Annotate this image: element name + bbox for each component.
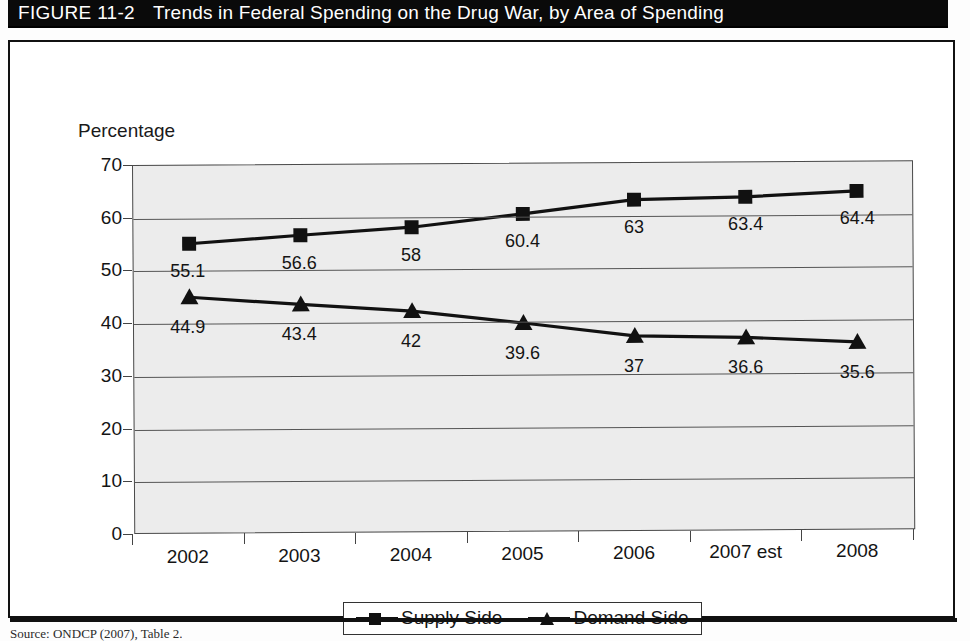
y-axis-tick-mark <box>123 429 132 430</box>
y-axis-tick-labels: 010203040506070 <box>74 162 122 537</box>
marker-square <box>738 190 752 204</box>
data-label: 37 <box>624 355 644 376</box>
data-label: 60.4 <box>505 231 540 252</box>
data-label: 58 <box>401 244 421 265</box>
marker-square <box>516 207 530 221</box>
x-axis-tick-label: 2006 <box>613 542 655 564</box>
data-label: 63.4 <box>728 214 763 235</box>
x-axis-tick-label: 2002 <box>167 546 209 568</box>
y-axis-tick-label: 70 <box>82 154 122 176</box>
data-label: 36.6 <box>728 357 763 378</box>
y-axis-title: Percentage <box>78 120 175 142</box>
y-axis-tick-mark <box>123 165 132 166</box>
y-axis-tick-mark <box>123 218 132 219</box>
data-label: 56.6 <box>282 252 317 273</box>
y-axis-tick-label: 40 <box>82 312 122 334</box>
y-axis-tick-label: 30 <box>82 365 122 387</box>
chart-frame: Percentage 010203040506070 55.156.65860.… <box>8 40 955 618</box>
y-axis-tick-mark <box>123 376 132 377</box>
data-label: 64.4 <box>840 208 875 229</box>
figure-caption-inner: FIGURE 11-2 Trends in Federal Spending o… <box>18 2 724 24</box>
figure-caption-band: FIGURE 11-2 Trends in Federal Spending o… <box>8 0 948 28</box>
data-label: 55.1 <box>170 261 205 282</box>
frame-shadow <box>10 618 957 622</box>
figure-title: Trends in Federal Spending on the Drug W… <box>153 2 724 24</box>
y-axis-tick-mark <box>123 534 132 535</box>
x-axis: 200220032004200520062007 est2008 <box>132 536 915 580</box>
x-axis-tick-label: 2003 <box>278 545 320 567</box>
x-axis-tick-mark <box>132 534 133 545</box>
y-axis-tick-label: 0 <box>82 523 122 545</box>
x-axis-tick-mark <box>355 533 356 544</box>
y-axis-tick-mark <box>123 323 132 324</box>
y-axis-tick-label: 10 <box>82 470 122 492</box>
data-label: 63 <box>624 216 644 237</box>
marker-square <box>182 237 196 251</box>
x-axis-tick-mark <box>913 529 914 540</box>
x-axis-tick-label: 2005 <box>501 543 543 565</box>
x-axis-tick-mark <box>467 532 468 543</box>
x-axis-tick-mark <box>690 531 691 542</box>
x-axis-tick-label: 2007 est <box>709 541 782 563</box>
y-axis-tick-label: 60 <box>82 207 122 229</box>
data-label: 39.6 <box>505 342 540 363</box>
x-axis-tick-mark <box>801 530 802 541</box>
x-axis-tick-label: 2004 <box>390 544 432 566</box>
marker-square <box>850 184 864 198</box>
data-label: 35.6 <box>840 361 875 382</box>
data-label: 42 <box>401 330 421 351</box>
marker-square <box>627 193 641 207</box>
source-note: Source: ONDCP (2007), Table 2. <box>10 626 182 641</box>
data-label: 44.9 <box>170 316 205 337</box>
y-axis-tick-mark <box>123 481 132 482</box>
data-label: 43.4 <box>282 324 317 345</box>
x-axis-tick-mark <box>244 533 245 544</box>
x-axis-tick-mark <box>578 531 579 542</box>
marker-square <box>293 228 307 242</box>
x-axis-tick-label: 2008 <box>836 540 878 562</box>
figure-number: FIGURE 11-2 <box>18 2 135 24</box>
y-axis-tick-label: 20 <box>82 418 122 440</box>
y-axis-tick-label: 50 <box>82 259 122 281</box>
marker-square <box>405 220 419 234</box>
y-axis-tick-mark <box>123 270 132 271</box>
